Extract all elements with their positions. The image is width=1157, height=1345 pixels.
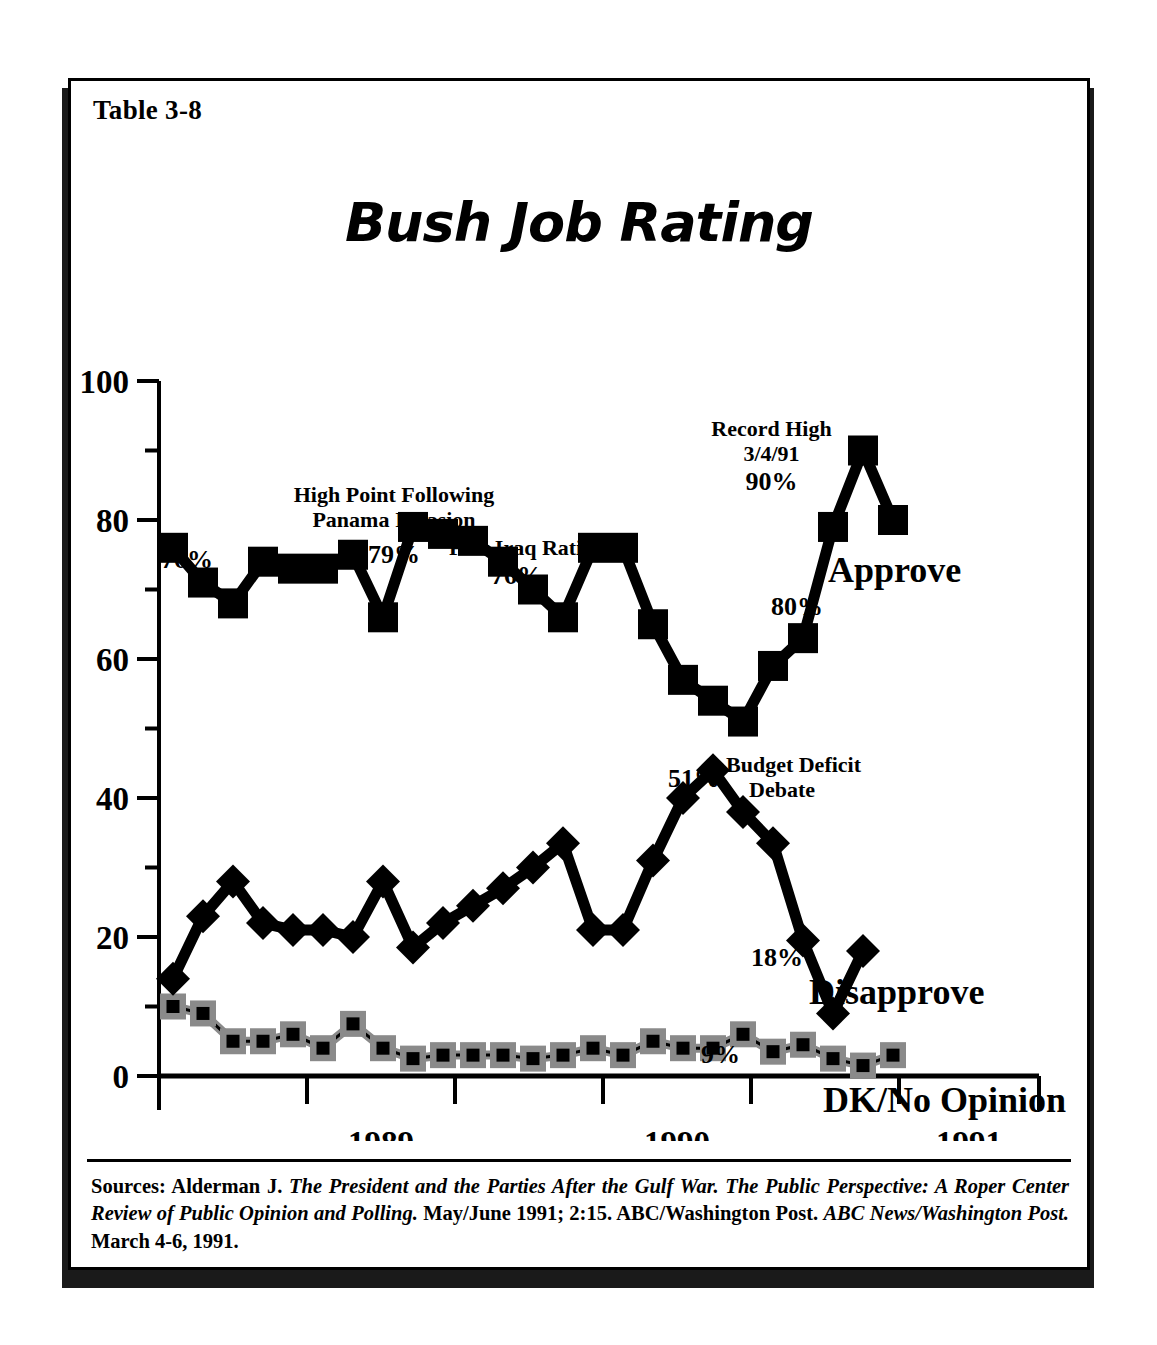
annotation-budget-line2: Debate	[749, 778, 815, 802]
sources-note: Sources: Alderman J. The President and t…	[91, 1173, 1069, 1255]
x-tick-label-1991: 1991	[936, 1125, 1002, 1141]
series-label-disapprove: Disapprove	[809, 973, 984, 1012]
sources-italic-2: ABC News/Washington Post.	[823, 1202, 1069, 1224]
page-root: Table 3-8 Bush Job Rating 02040608010019…	[0, 0, 1157, 1345]
series-label-dk: DK/No Opinion	[823, 1081, 1066, 1120]
y-tick-label: 80	[96, 503, 129, 539]
annotation-iraq-value: 76%	[491, 562, 543, 590]
annotation-panama-value: 79%	[359, 541, 429, 569]
annotation-panama-line2: Panama Invasion	[264, 508, 524, 532]
annotation-approve-end-value: 80%	[771, 593, 823, 621]
annotation-record-line1: Record High	[684, 417, 859, 441]
series-dk-no-opinion	[160, 994, 906, 1079]
y-tick-label: 100	[80, 364, 130, 400]
sources-suffix: March 4-6, 1991.	[91, 1230, 239, 1252]
annotation-budget-line1: Budget Deficit	[726, 753, 861, 777]
annotation-disapprove-end-value: 18%	[751, 944, 803, 972]
table-frame: Table 3-8 Bush Job Rating 02040608010019…	[68, 78, 1090, 1270]
annotation-start-value: 76%	[161, 546, 213, 574]
sources-mid: May/June 1991; 2:15. ABC/Washington Post…	[418, 1202, 824, 1224]
annotation-record-value: 90%	[684, 468, 859, 496]
annotation-record-line2: 3/4/91	[684, 442, 859, 466]
sources-divider	[87, 1159, 1071, 1162]
chart-plot-area: 020406080100198919901991 76% High Point …	[71, 81, 1087, 1141]
y-tick-label: 0	[113, 1059, 130, 1095]
annotation-disapprove-low-value: 9%	[701, 1041, 740, 1069]
annotation-iraq-line1: Post Iraq Rating	[449, 536, 605, 560]
y-tick-label: 60	[96, 642, 129, 678]
sources-prefix: Sources: Alderman J.	[91, 1175, 289, 1197]
series-label-approve: Approve	[828, 551, 961, 590]
annotation-panama-line1: High Point Following	[264, 483, 524, 507]
annotation-budget-value: 51%	[668, 765, 720, 793]
y-tick-label: 20	[96, 920, 129, 956]
x-tick-label-1989: 1989	[348, 1125, 414, 1141]
x-tick-label-1990: 1990	[644, 1125, 710, 1141]
y-tick-label: 40	[96, 781, 129, 817]
